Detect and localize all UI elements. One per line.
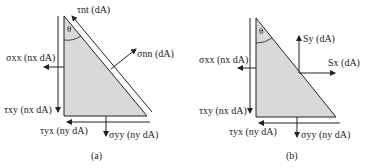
tau-yx-label-b: τyx (ny dA) — [229, 127, 277, 137]
caption-b: (b) — [286, 150, 298, 161]
panel-a — [44, 16, 152, 136]
stress-diagram — [0, 0, 366, 168]
tau-xy-label-a: τxy (nx dA) — [4, 105, 52, 115]
sigma-yy-label-b: σyy (ny dA) — [301, 130, 350, 140]
tau-yx-label-a: τyx (ny dA) — [40, 126, 88, 136]
theta-label-b: θ — [259, 27, 263, 36]
sigma-xx-label-a: σxx (nx dA) — [6, 53, 55, 63]
triangle-element-a — [64, 16, 147, 116]
tau-xy-label-b: τxy (nx dA) — [199, 106, 247, 116]
s-x-label: Sx (dA) — [328, 58, 360, 68]
sigma-nn-label: σnn (dA) — [137, 49, 174, 59]
sigma-nn-arrow — [111, 49, 136, 69]
tau-nt-label: τnt (dA) — [77, 5, 110, 15]
sigma-yy-label-a: σyy (ny dA) — [109, 130, 158, 140]
theta-label-a: θ — [67, 25, 71, 34]
sigma-xx-label-b: σxx (nx dA) — [199, 55, 248, 65]
s-y-label: Sy (dA) — [303, 34, 335, 44]
caption-a: (a) — [91, 150, 102, 161]
